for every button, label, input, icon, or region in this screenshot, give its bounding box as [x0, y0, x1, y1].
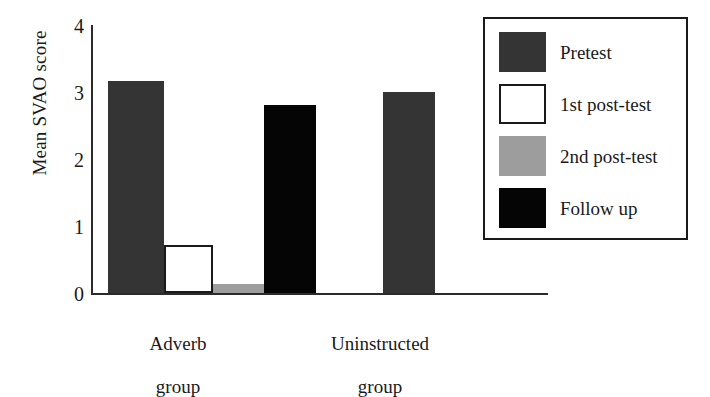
x-axis-line — [91, 293, 548, 295]
legend-item-follow-up: Follow up — [499, 186, 679, 230]
legend-label-1st-post-test: 1st post-test — [560, 95, 651, 114]
pretest-swatch-icon — [499, 32, 546, 72]
follow-up-swatch-icon — [499, 188, 546, 228]
y-tick-label-4: 4 — [58, 16, 84, 36]
legend-item-1st-post-test: 1st post-test — [499, 82, 679, 126]
x-group-label-adverb: Adverb group — [118, 312, 238, 397]
bar-adverb-2nd-post-test — [213, 284, 264, 293]
bar-adverb-1st-post-test — [164, 245, 213, 293]
x-group-label-adverb-line2: group — [156, 376, 200, 397]
bar-uninstructed-pretest — [383, 92, 435, 293]
x-group-label-uninstructed-line2: group — [358, 376, 402, 397]
bar-adverb-pretest — [108, 81, 164, 293]
y-tick-label-3: 3 — [58, 83, 84, 103]
legend-label-pretest: Pretest — [560, 43, 612, 62]
y-tick-label-1: 1 — [58, 217, 84, 237]
x-group-label-adverb-line1: Adverb — [150, 333, 207, 354]
y-tick-label-2: 2 — [58, 150, 84, 170]
legend-item-pretest: Pretest — [499, 30, 679, 74]
legend-label-follow-up: Follow up — [560, 199, 638, 218]
bar-adverb-follow-up — [264, 105, 316, 293]
legend-label-2nd-post-test: 2nd post-test — [560, 147, 658, 166]
x-group-label-uninstructed-line1: Uninstructed — [331, 333, 429, 354]
plot-area — [93, 25, 548, 293]
x-group-label-uninstructed: Uninstructed group — [298, 312, 462, 397]
post2-swatch-icon — [499, 136, 546, 176]
y-axis-title: Mean SVAO score — [29, 0, 51, 213]
post1-swatch-icon — [499, 84, 546, 124]
y-tick-label-0: 0 — [58, 284, 84, 304]
legend: Pretest 1st post-test 2nd post-test Foll… — [483, 17, 688, 240]
legend-item-2nd-post-test: 2nd post-test — [499, 134, 679, 178]
